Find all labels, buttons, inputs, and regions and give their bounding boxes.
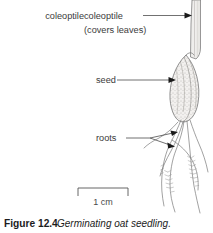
seed-shape [170, 53, 199, 122]
caption-figure-number: Figure 12.4 [4, 218, 58, 229]
label-coleoptile-line1: coleoptile [45, 11, 84, 21]
coleoptile-shape [191, 0, 201, 59]
caption-text: Germinating oat seedling. [57, 218, 171, 229]
root-hairs [160, 156, 198, 192]
label-seed: seed [96, 75, 116, 85]
scale-bar: 1 cm [78, 188, 128, 207]
coleoptile-arrowhead [185, 13, 193, 19]
label-coleoptile-text: coleoptile [84, 11, 123, 21]
roots-leader-branch-upper [150, 133, 173, 138]
label-coleoptile-subtext: (covers leaves) [84, 25, 146, 35]
scale-bar-label: 1 cm [93, 197, 113, 207]
germinating-oat-seedling-illustration: coleoptile coleoptile (covers leaves) se… [0, 0, 213, 233]
figure-container: coleoptile coleoptile (covers leaves) se… [0, 0, 213, 233]
label-roots: roots [96, 133, 117, 143]
roots-shape [144, 120, 208, 213]
